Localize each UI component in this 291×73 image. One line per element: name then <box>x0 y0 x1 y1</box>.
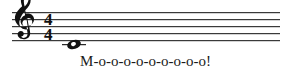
time-signature: 4 4 <box>40 11 56 42</box>
note-group <box>62 39 86 51</box>
music-notation-figure: 4 4 M-o-o-o-o-o-o-o-o-o! <box>0 0 291 73</box>
time-signature-denominator: 4 <box>44 27 52 42</box>
lyric-text: M-o-o-o-o-o-o-o-o-o! <box>0 52 291 70</box>
whole-note-head <box>67 40 81 49</box>
treble-clef-icon <box>12 0 38 43</box>
